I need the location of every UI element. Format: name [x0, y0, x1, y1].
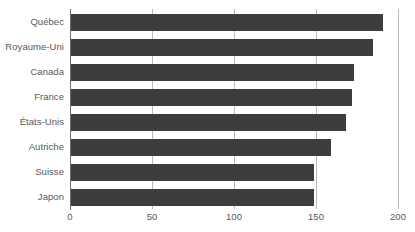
value-axis-tick-labels: 0 50 100 150 200 [0, 211, 415, 231]
bar-japon [70, 189, 314, 206]
bar-etats-unis [70, 114, 346, 131]
bar-royaume-uni [70, 39, 373, 56]
category-label-etats-unis: États-Unis [0, 116, 64, 127]
category-label-suisse: Suisse [0, 166, 64, 177]
bar-france [70, 89, 352, 106]
category-label-canada: Canada [0, 66, 64, 77]
bar-chart: Québec Royaume-Uni Canada France États-U… [0, 0, 415, 232]
category-label-royaume-uni: Royaume-Uni [0, 41, 64, 52]
category-label-france: France [0, 91, 64, 102]
category-label-quebec: Québec [0, 16, 64, 27]
gridline-200 [398, 9, 399, 209]
category-label-japon: Japon [0, 191, 64, 202]
bar-suisse [70, 164, 314, 181]
category-axis-labels: Québec Royaume-Uni Canada France États-U… [0, 0, 64, 232]
bar-autriche [70, 139, 331, 156]
value-axis-line [70, 9, 71, 210]
plot-area [70, 9, 398, 209]
x-tick-0: 0 [67, 211, 72, 222]
x-tick-150: 150 [308, 211, 324, 222]
x-tick-50: 50 [147, 211, 158, 222]
category-label-autriche: Autriche [0, 141, 64, 152]
x-tick-200: 200 [390, 211, 406, 222]
bar-quebec [70, 14, 383, 31]
bar-canada [70, 64, 354, 81]
x-tick-100: 100 [226, 211, 242, 222]
